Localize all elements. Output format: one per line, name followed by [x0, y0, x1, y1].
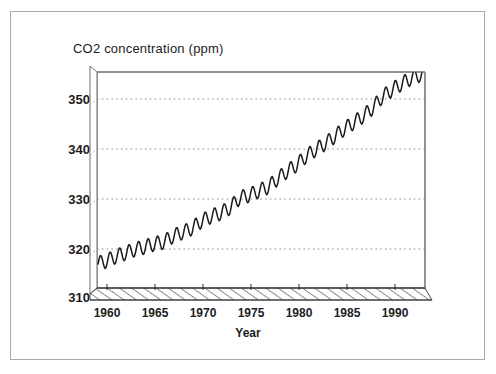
plot-left-wall	[90, 66, 97, 294]
figure-canvas: CO2 concentration (ppm) 350 340 330 320 …	[0, 0, 496, 374]
plot-floor-slab	[90, 288, 432, 300]
plot-area	[0, 0, 496, 374]
plot-back-wall	[97, 72, 425, 288]
